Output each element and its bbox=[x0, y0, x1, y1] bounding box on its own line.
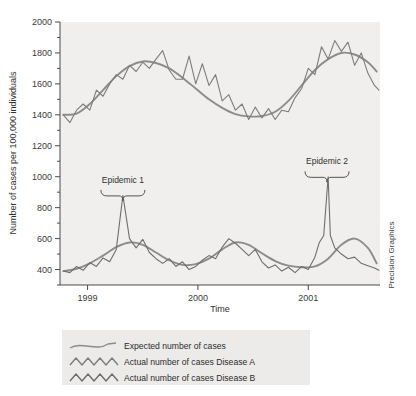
x-tick-label: 2001 bbox=[298, 293, 318, 303]
y-tick-label: 2000 bbox=[32, 17, 52, 27]
x-tick-label: 1999 bbox=[78, 293, 98, 303]
x-axis-title: Time bbox=[210, 304, 230, 314]
y-tick-label: 1600 bbox=[32, 79, 52, 89]
y-axis-title: Number of cases per 100,000 individuals bbox=[8, 71, 18, 235]
legend-label-3: Actual number of cases Disease B bbox=[124, 373, 256, 383]
plot-area-background bbox=[60, 22, 380, 285]
legend-label-1: Expected number of cases bbox=[124, 341, 226, 351]
y-tick-label: 1800 bbox=[32, 48, 52, 58]
y-tick-label: 1200 bbox=[32, 141, 52, 151]
legend-label-2: Actual number of cases Disease A bbox=[124, 357, 255, 367]
y-tick-label: 1000 bbox=[32, 172, 52, 182]
y-tick-label: 1400 bbox=[32, 110, 52, 120]
y-tick-label: 800 bbox=[37, 203, 52, 213]
chart-figure: 400600800100012001400160018002000 199920… bbox=[0, 0, 416, 396]
annotation-label: Epidemic 1 bbox=[102, 175, 144, 185]
y-tick-label: 400 bbox=[37, 265, 52, 275]
y-tick-label: 600 bbox=[37, 234, 52, 244]
annotation-label: Epidemic 2 bbox=[306, 156, 348, 166]
epidemic-cases-line-chart: 400600800100012001400160018002000 199920… bbox=[0, 0, 416, 396]
x-tick-label: 2000 bbox=[188, 293, 208, 303]
credit-label: Precision Graphics bbox=[387, 221, 396, 288]
